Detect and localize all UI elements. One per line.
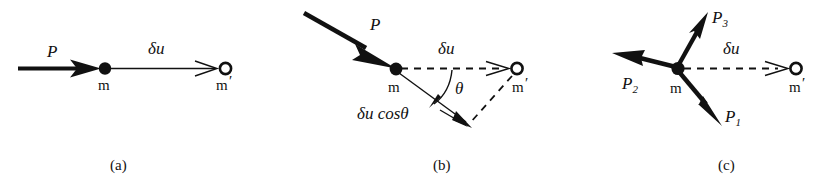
- displaced-label-c: m: [789, 79, 801, 95]
- displacement-label-a: δu: [148, 39, 164, 58]
- displacement-label-c: δu: [723, 39, 739, 58]
- force-label-p3-c: P3: [711, 8, 728, 29]
- mass-label-b: m: [388, 79, 400, 95]
- caption-b: (b): [433, 157, 451, 174]
- panel-b: P m δu θ δu cosθ m ′ (b): [304, 13, 528, 174]
- force-arrow-p-b: [304, 13, 396, 69]
- displacement-arrow-c: [684, 62, 788, 76]
- displaced-label-a: m: [216, 77, 228, 93]
- displaced-prime-a: ′: [229, 73, 232, 89]
- caption-c: (c): [718, 157, 735, 174]
- displacement-label-b: δu: [438, 39, 454, 58]
- displaced-prime-c: ′: [802, 75, 805, 91]
- angle-label-b: θ: [455, 79, 463, 98]
- force-label-p1-c: P1: [724, 107, 741, 128]
- caption-a: (a): [110, 157, 127, 174]
- force-arrow-p1-c: [680, 73, 722, 126]
- mass-label-a: m: [98, 77, 110, 93]
- force-label-p-b: P: [369, 15, 380, 34]
- displacement-arrow-b: [401, 62, 509, 76]
- mass-label-c: m: [670, 80, 682, 96]
- force-label-p2-c: P2: [621, 74, 638, 95]
- projection-label-b: δu cosθ: [357, 104, 409, 123]
- figure-container: P m δu m ′ (a): [0, 0, 837, 184]
- displaced-label-b: m: [512, 79, 524, 95]
- perpendicular-dash-b: [470, 76, 512, 123]
- panel-c: P3 P2 P1 m δu m ′ (c): [612, 8, 805, 174]
- panel-a: P m δu m ′ (a): [18, 39, 232, 174]
- mass-dot-c: [671, 62, 684, 75]
- force-arrow-p2-c: [612, 50, 676, 67]
- force-label-p-a: P: [46, 42, 57, 61]
- displaced-circle-c: [790, 63, 801, 74]
- force-arrow-p3-c: [678, 12, 708, 66]
- displaced-prime-b: ′: [525, 75, 528, 91]
- force-arrow-p-a: [18, 60, 101, 78]
- angle-arc-b: [429, 70, 452, 108]
- displaced-circle-b: [511, 63, 522, 74]
- figure-svg: P m δu m ′ (a): [0, 0, 837, 184]
- displacement-arrow-a: [105, 61, 217, 76]
